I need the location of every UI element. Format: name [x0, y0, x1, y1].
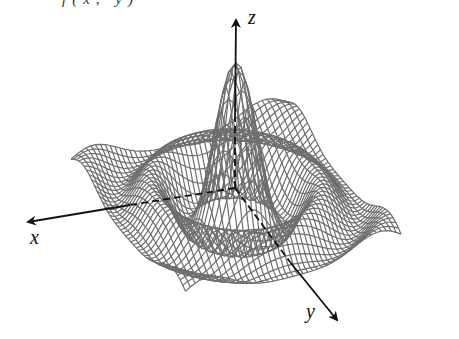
axes	[28, 20, 337, 320]
wireframe-surface-plot	[0, 0, 459, 339]
z-axis-label: z	[248, 6, 256, 29]
x-axis-label: x	[30, 226, 39, 249]
y-axis-label: y	[306, 300, 315, 323]
